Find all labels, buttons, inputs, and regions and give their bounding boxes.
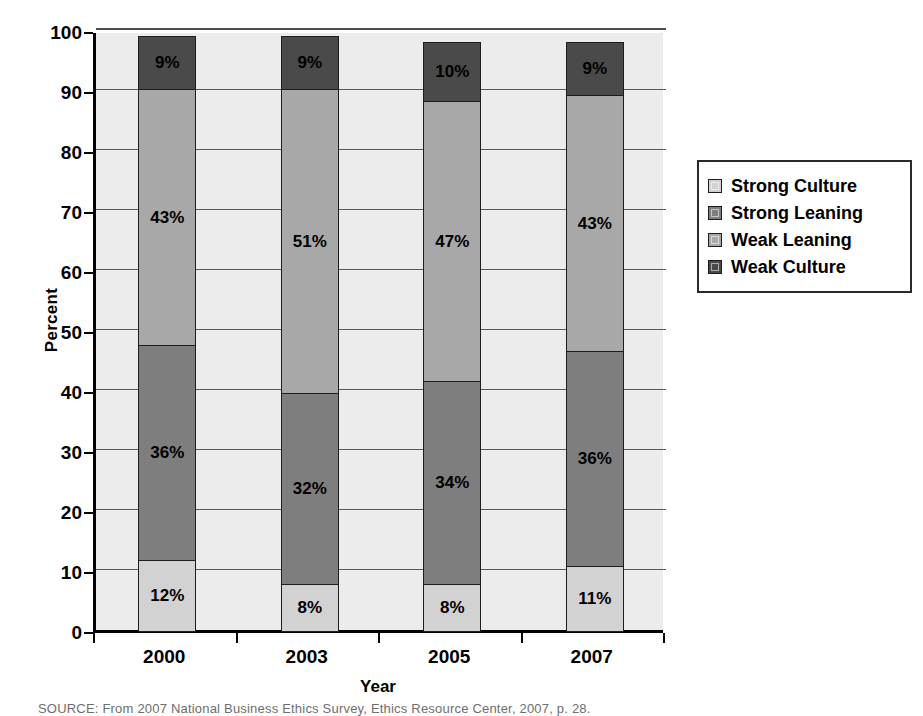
bar-segment-value: 9%: [297, 53, 322, 73]
bar-2005[interactable]: 10%47%34%8%: [423, 42, 481, 630]
x-tick-mark: [93, 633, 95, 643]
bar-segment-value: 43%: [150, 208, 184, 228]
y-tick-label: 10: [24, 562, 82, 584]
bar-2000[interactable]: 9%43%36%12%: [138, 36, 196, 630]
y-tick-mark: [84, 452, 93, 454]
bar-segment-value: 36%: [578, 449, 612, 469]
legend-item-weak-leaning[interactable]: Weak Leaning: [708, 227, 904, 253]
y-axis-tick-labels: 1009080706050403020100: [24, 0, 82, 716]
y-tick-label: 40: [24, 382, 82, 404]
bar-segment-value: 32%: [293, 479, 327, 499]
x-tick-label: 2005: [389, 646, 509, 668]
x-tick-mark: [236, 633, 238, 643]
legend-label: Strong Leaning: [731, 203, 863, 224]
bar-segment-strong-culture[interactable]: 8%: [281, 584, 339, 632]
y-tick-label: 60: [24, 262, 82, 284]
y-tick-label: 100: [24, 22, 82, 44]
y-tick-label: 0: [24, 622, 82, 644]
bar-segment-weak-leaning[interactable]: 51%: [281, 89, 339, 395]
legend-label: Strong Culture: [731, 176, 857, 197]
bar-segment-weak-leaning[interactable]: 43%: [138, 89, 196, 347]
bar-segment-value: 12%: [150, 586, 184, 606]
chart-legend: Strong CultureStrong LeaningWeak Leaning…: [697, 160, 912, 293]
bar-segment-strong-leaning[interactable]: 36%: [566, 351, 624, 567]
legend-swatch-icon: [708, 233, 722, 247]
y-tick-mark: [84, 632, 93, 634]
x-tick-mark: [521, 633, 523, 643]
y-tick-label: 70: [24, 202, 82, 224]
y-tick-mark: [84, 212, 93, 214]
x-tick-mark: [378, 633, 380, 643]
bar-segment-strong-culture[interactable]: 12%: [138, 560, 196, 632]
legend-label: Weak Leaning: [731, 230, 852, 251]
y-tick-mark: [84, 32, 93, 34]
legend-item-strong-culture[interactable]: Strong Culture: [708, 173, 904, 199]
bar-segment-value: 9%: [582, 59, 607, 79]
y-tick-mark: [84, 152, 93, 154]
legend-swatch-icon: [708, 179, 722, 193]
bar-segment-weak-culture[interactable]: 9%: [281, 36, 339, 90]
bar-segment-value: 11%: [578, 589, 611, 609]
bar-segment-strong-culture[interactable]: 11%: [566, 566, 624, 632]
bar-segment-value: 10%: [435, 62, 469, 82]
plot-area: 9%43%36%12%9%51%32%8%10%47%34%8%9%43%36%…: [93, 33, 663, 633]
bar-segment-strong-leaning[interactable]: 34%: [423, 381, 481, 585]
y-tick-mark: [84, 332, 93, 334]
legend-item-weak-culture[interactable]: Weak Culture: [708, 254, 904, 280]
y-tick-mark: [84, 512, 93, 514]
legend-label: Weak Culture: [731, 257, 846, 278]
y-tick-label: 50: [24, 322, 82, 344]
x-tick-label: 2007: [532, 646, 652, 668]
legend-item-strong-leaning[interactable]: Strong Leaning: [708, 200, 904, 226]
y-tick-label: 20: [24, 502, 82, 524]
x-tick-mark: [663, 633, 665, 643]
bar-segment-weak-leaning[interactable]: 43%: [566, 95, 624, 353]
bar-segment-value: 9%: [155, 53, 180, 73]
bar-segment-weak-culture[interactable]: 9%: [138, 36, 196, 90]
y-tick-mark: [84, 392, 93, 394]
bar-segment-value: 43%: [578, 214, 612, 234]
bar-segment-strong-leaning[interactable]: 36%: [138, 345, 196, 561]
x-tick-label: 2000: [104, 646, 224, 668]
legend-swatch-icon: [708, 260, 722, 274]
bar-segment-value: 8%: [440, 598, 465, 618]
y-tick-mark: [84, 92, 93, 94]
chart-page: Percent 1009080706050403020100 9%43%36%1…: [0, 0, 923, 716]
bar-segment-strong-culture[interactable]: 8%: [423, 584, 481, 632]
bar-segment-weak-culture[interactable]: 9%: [566, 42, 624, 96]
gridline: [96, 28, 666, 30]
bar-segment-value: 36%: [150, 443, 184, 463]
legend-swatch-icon: [708, 206, 722, 220]
y-tick-label: 90: [24, 82, 82, 104]
bar-segment-value: 34%: [435, 473, 469, 493]
bar-2003[interactable]: 9%51%32%8%: [281, 36, 339, 630]
bar-segment-strong-leaning[interactable]: 32%: [281, 393, 339, 585]
bar-segment-weak-leaning[interactable]: 47%: [423, 101, 481, 383]
y-tick-mark: [84, 272, 93, 274]
y-tick-mark: [84, 572, 93, 574]
bar-segment-weak-culture[interactable]: 10%: [423, 42, 481, 102]
source-footnote: SOURCE: From 2007 National Business Ethi…: [38, 701, 591, 716]
x-axis-title: Year: [93, 677, 663, 697]
bar-segment-value: 51%: [293, 232, 327, 252]
y-tick-label: 30: [24, 442, 82, 464]
bar-segment-value: 47%: [435, 232, 469, 252]
bar-segment-value: 8%: [297, 598, 322, 618]
x-tick-label: 2003: [247, 646, 367, 668]
y-tick-label: 80: [24, 142, 82, 164]
bar-2007[interactable]: 9%43%36%11%: [566, 42, 624, 630]
